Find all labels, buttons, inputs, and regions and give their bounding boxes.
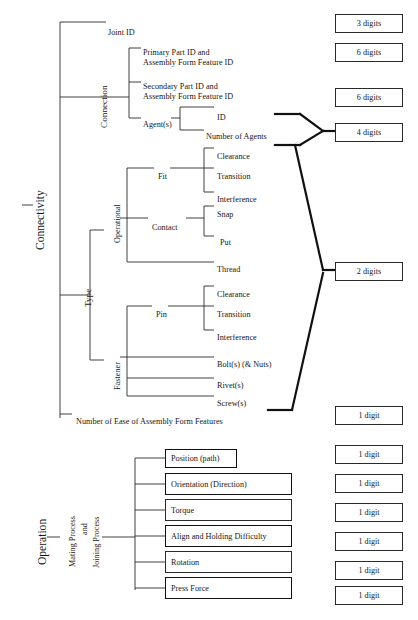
node-connection: Connection	[99, 85, 110, 128]
node-fit: Fit	[158, 172, 167, 182]
node-fit-interference: Interference	[217, 195, 257, 205]
digit-count-box: 1 digit	[335, 503, 403, 522]
node-bolts: Bolt(s) (& Nuts)	[217, 360, 271, 370]
operation-attribute-box: Press Force	[165, 577, 292, 599]
digit-count-box: 3 digits	[335, 14, 403, 33]
node-ease-of-assembly: Number of Ease of Assembly Form Features	[76, 417, 223, 427]
operation-attribute-box: Torque	[165, 499, 292, 521]
node-joining-process: Joining Process	[92, 517, 102, 568]
node-primary-part-2: Assembly Form Feature ID	[143, 58, 233, 68]
node-type: Type	[83, 289, 94, 307]
digit-count-box: 1 digit	[335, 474, 403, 493]
node-secondary-part: Secondary Part ID and	[143, 82, 218, 92]
node-pin: Pin	[156, 310, 167, 320]
node-mating-process: Mating Process	[68, 516, 78, 567]
node-agents: Agent(s)	[143, 120, 172, 130]
operation-attribute-box: Align and Holding Difficulty	[165, 525, 292, 547]
node-number-of-agents: Number of Agents	[206, 132, 267, 142]
node-rivets: Rivet(s)	[217, 381, 244, 391]
digit-count-box: 4 digits	[335, 123, 403, 142]
operation-attribute-box: Position (path)	[165, 449, 237, 468]
node-fit-transition: Transition	[217, 172, 251, 182]
node-contact: Contact	[152, 223, 178, 233]
aggregate-connector	[295, 145, 323, 270]
node-pin-clearance: Clearance	[217, 290, 250, 300]
node-secondary-part-2: Assembly Form Feature ID	[143, 92, 233, 102]
node-operational: Operational	[113, 204, 123, 243]
node-primary-part: Primary Part ID and	[143, 48, 210, 58]
digit-count-box: 1 digit	[335, 445, 403, 464]
node-fit-clearance: Clearance	[217, 152, 250, 162]
digit-count-box: 1 digit	[335, 406, 403, 425]
node-mating-and: and	[80, 523, 90, 535]
node-agent-id: ID	[217, 113, 226, 123]
thick-connector-group	[268, 114, 335, 410]
attribute-tree-diagram: ConnectivityJoint IDConnectionPrimary Pa…	[0, 0, 418, 620]
node-pin-transition: Transition	[217, 310, 251, 320]
root-operation: Operation	[35, 519, 49, 565]
node-pin-interference: Interference	[217, 333, 257, 343]
root-connectivity: Connectivity	[33, 190, 47, 250]
node-contact-put: Put	[220, 238, 231, 248]
digit-count-box: 1 digit	[335, 586, 403, 605]
digit-count-box: 6 digits	[335, 88, 403, 107]
digit-count-box: 1 digit	[335, 532, 403, 551]
aggregate-connector	[300, 131, 323, 145]
aggregate-connector	[300, 114, 323, 131]
digit-count-box: 6 digits	[335, 43, 403, 62]
node-joint-id: Joint ID	[108, 28, 135, 38]
digit-count-box: 2 digits	[335, 262, 403, 281]
node-contact-snap: Snap	[217, 210, 233, 220]
operation-attribute-box: Rotation	[165, 551, 292, 573]
operation-attribute-box: Orientation (Direction)	[165, 473, 292, 495]
aggregate-connector	[292, 273, 323, 410]
digit-count-box: 1 digit	[335, 561, 403, 580]
node-fastener: Fastener	[113, 362, 123, 390]
node-thread: Thread	[217, 265, 240, 275]
node-screws: Screw(s)	[217, 399, 246, 409]
